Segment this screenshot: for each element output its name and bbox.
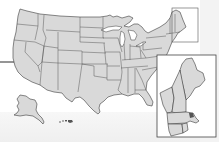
us-map — [0, 0, 219, 142]
alaska — [14, 95, 44, 124]
hawaii — [59, 120, 73, 123]
map-figure — [0, 0, 219, 142]
